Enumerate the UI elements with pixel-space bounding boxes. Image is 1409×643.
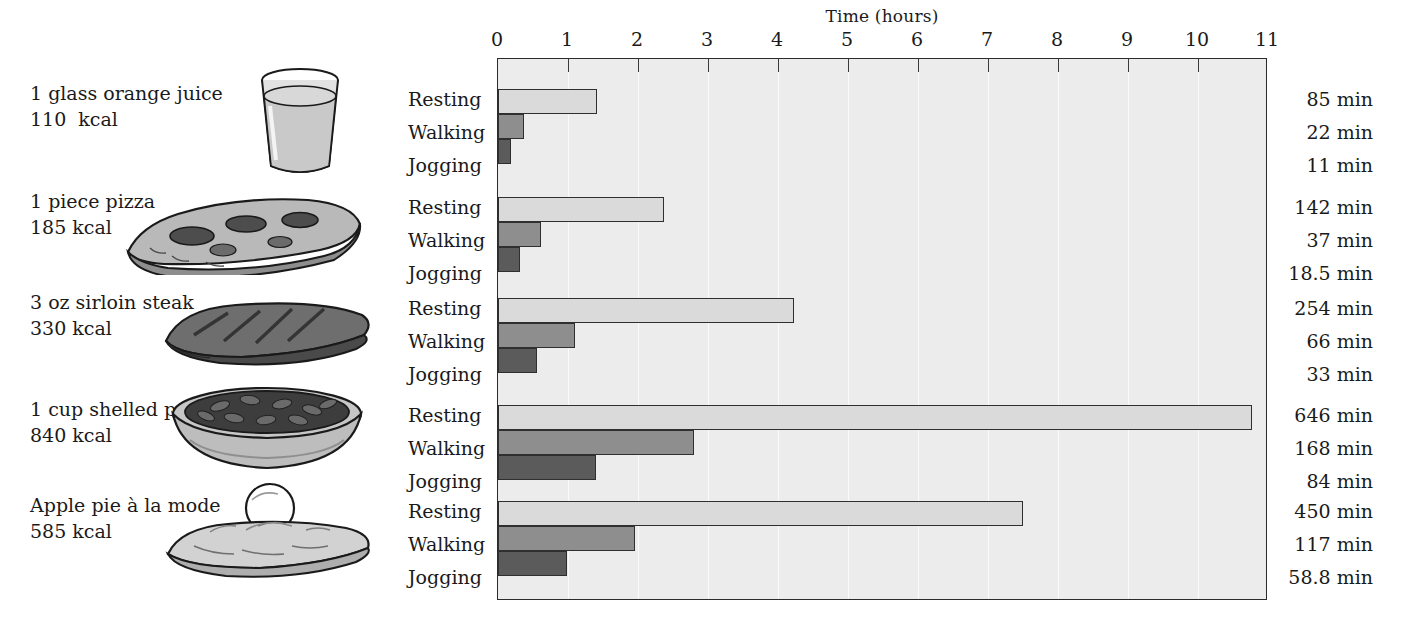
bar-row bbox=[498, 298, 1268, 323]
minutes-labels-group: 85 min22 min11 min bbox=[1281, 83, 1393, 182]
bar-row bbox=[498, 455, 1268, 480]
activity-label-walking: Walking bbox=[408, 528, 490, 561]
activity-label-resting: Resting bbox=[408, 399, 490, 432]
bar-3-oz-sirloin-steak-walking bbox=[498, 323, 575, 348]
x-tick-mark-10 bbox=[1198, 59, 1199, 72]
bar-row bbox=[498, 197, 1268, 222]
x-tick-label-5: 5 bbox=[827, 28, 867, 50]
activity-labels-group: RestingWalkingJogging bbox=[408, 83, 490, 182]
bar-1-cup-shelled-peanuts-jogging bbox=[498, 455, 596, 480]
minutes-labels-group: 646 min168 min84 min bbox=[1281, 399, 1393, 498]
bar-row bbox=[498, 551, 1268, 576]
x-tick-label-8: 8 bbox=[1037, 28, 1077, 50]
bar-1-piece-pizza-resting bbox=[498, 197, 664, 222]
bar-1-cup-shelled-peanuts-resting bbox=[498, 405, 1252, 430]
activity-label-jogging: Jogging bbox=[408, 257, 490, 290]
plot-area bbox=[497, 58, 1267, 600]
minutes-labels-group: 142 min37 min18.5 min bbox=[1281, 191, 1393, 290]
activity-label-jogging: Jogging bbox=[408, 149, 490, 182]
activity-label-jogging: Jogging bbox=[408, 358, 490, 391]
axis-title: Time (hours) bbox=[497, 6, 1267, 26]
bar-row bbox=[498, 139, 1268, 164]
x-tick-label-1: 1 bbox=[547, 28, 587, 50]
minutes-label-jogging: 18.5 min bbox=[1281, 257, 1373, 290]
chart-canvas: Time (hours) 01234567891011 1 glass oran… bbox=[0, 0, 1409, 643]
bar-1-glass-orange-juice-walking bbox=[498, 114, 524, 139]
bar-apple-pie-la-mode-jogging bbox=[498, 551, 567, 576]
bar-1-glass-orange-juice-jogging bbox=[498, 139, 511, 164]
activity-labels-group: RestingWalkingJogging bbox=[408, 495, 490, 594]
x-tick-mark-6 bbox=[918, 59, 919, 72]
x-tick-label-4: 4 bbox=[757, 28, 797, 50]
minutes-label-walking: 22 min bbox=[1281, 116, 1373, 149]
x-tick-label-0: 0 bbox=[477, 28, 517, 50]
x-tick-mark-9 bbox=[1128, 59, 1129, 72]
minutes-label-walking: 117 min bbox=[1281, 528, 1373, 561]
x-tick-mark-8 bbox=[1058, 59, 1059, 72]
pizza-slice-illustration bbox=[120, 190, 370, 275]
activity-label-resting: Resting bbox=[408, 292, 490, 325]
x-tick-mark-4 bbox=[778, 59, 779, 72]
minutes-label-walking: 168 min bbox=[1281, 432, 1373, 465]
bar-row bbox=[498, 89, 1268, 114]
minutes-label-walking: 66 min bbox=[1281, 325, 1373, 358]
bar-3-oz-sirloin-steak-jogging bbox=[498, 348, 537, 373]
minutes-labels-group: 450 min117 min58.8 min bbox=[1281, 495, 1393, 594]
minutes-label-resting: 646 min bbox=[1281, 399, 1373, 432]
activity-label-resting: Resting bbox=[408, 191, 490, 224]
x-tick-mark-2 bbox=[638, 59, 639, 72]
x-tick-label-11: 11 bbox=[1247, 28, 1287, 50]
bar-row bbox=[498, 501, 1268, 526]
x-tick-label-9: 9 bbox=[1107, 28, 1147, 50]
activity-label-resting: Resting bbox=[408, 83, 490, 116]
activity-label-jogging: Jogging bbox=[408, 561, 490, 594]
bar-row bbox=[498, 348, 1268, 373]
bar-row bbox=[498, 323, 1268, 348]
minutes-label-jogging: 11 min bbox=[1281, 149, 1373, 182]
x-tick-label-7: 7 bbox=[967, 28, 1007, 50]
minutes-label-resting: 142 min bbox=[1281, 191, 1373, 224]
bar-row bbox=[498, 430, 1268, 455]
orange-juice-glass-illustration bbox=[245, 62, 355, 177]
bar-row bbox=[498, 114, 1268, 139]
x-tick-mark-3 bbox=[708, 59, 709, 72]
bar-apple-pie-la-mode-walking bbox=[498, 526, 635, 551]
bowl-of-peanuts-illustration bbox=[150, 378, 385, 473]
activity-label-walking: Walking bbox=[408, 432, 490, 465]
activity-label-walking: Walking bbox=[408, 116, 490, 149]
x-tick-mark-1 bbox=[568, 59, 569, 72]
activity-labels-group: RestingWalkingJogging bbox=[408, 399, 490, 498]
bar-row bbox=[498, 526, 1268, 551]
minutes-label-resting: 254 min bbox=[1281, 292, 1373, 325]
minutes-label-jogging: 58.8 min bbox=[1281, 561, 1373, 594]
activity-labels-group: RestingWalkingJogging bbox=[408, 292, 490, 391]
minutes-labels-group: 254 min66 min33 min bbox=[1281, 292, 1393, 391]
activity-label-walking: Walking bbox=[408, 224, 490, 257]
steak-illustration bbox=[150, 295, 380, 375]
bar-1-cup-shelled-peanuts-walking bbox=[498, 430, 694, 455]
activity-label-resting: Resting bbox=[408, 495, 490, 528]
x-tick-label-10: 10 bbox=[1177, 28, 1217, 50]
bar-1-piece-pizza-walking bbox=[498, 222, 541, 247]
minutes-label-jogging: 84 min bbox=[1281, 465, 1373, 498]
x-tick-mark-5 bbox=[848, 59, 849, 72]
bar-row bbox=[498, 405, 1268, 430]
minutes-label-walking: 37 min bbox=[1281, 224, 1373, 257]
activity-label-walking: Walking bbox=[408, 325, 490, 358]
minutes-label-resting: 450 min bbox=[1281, 495, 1373, 528]
x-tick-mark-7 bbox=[988, 59, 989, 72]
bar-1-piece-pizza-jogging bbox=[498, 247, 520, 272]
apple-pie-a-la-mode-illustration bbox=[150, 480, 385, 590]
minutes-label-jogging: 33 min bbox=[1281, 358, 1373, 391]
activity-label-jogging: Jogging bbox=[408, 465, 490, 498]
bar-row bbox=[498, 222, 1268, 247]
x-tick-label-3: 3 bbox=[687, 28, 727, 50]
bar-3-oz-sirloin-steak-resting bbox=[498, 298, 794, 323]
activity-labels-group: RestingWalkingJogging bbox=[408, 191, 490, 290]
bar-row bbox=[498, 247, 1268, 272]
minutes-label-resting: 85 min bbox=[1281, 83, 1373, 116]
x-tick-label-2: 2 bbox=[617, 28, 657, 50]
bar-apple-pie-la-mode-resting bbox=[498, 501, 1023, 526]
bar-1-glass-orange-juice-resting bbox=[498, 89, 597, 114]
x-tick-label-6: 6 bbox=[897, 28, 937, 50]
